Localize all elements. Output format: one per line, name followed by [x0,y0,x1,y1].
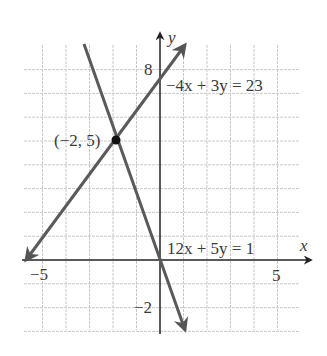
tick-label-x-neg5: −5 [30,265,48,284]
y-axis-label: y [166,28,176,47]
coordinate-plane: y x 8 −2 −5 5 (−2, 5) −4x + 3y = 23 12x … [0,0,327,356]
line-eq1 [26,45,185,260]
equation-label-1: −4x + 3y = 23 [166,76,263,95]
intersection-point [112,136,121,145]
point-label: (−2, 5) [54,131,100,150]
tick-label-x-5: 5 [272,266,281,285]
equation-label-2: 12x + 5y = 1 [167,239,254,258]
x-axis-label: x [299,236,308,255]
tick-label-y-8: 8 [144,60,153,79]
tick-label-y-neg2: −2 [134,298,152,317]
